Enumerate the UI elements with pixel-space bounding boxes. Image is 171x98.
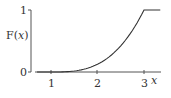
y-tick-label-1: 1: [20, 4, 27, 17]
cdf-curve: [37, 10, 160, 72]
y-axis-label: F(x): [6, 29, 28, 42]
y-tick-label-0: 0: [20, 66, 27, 79]
cdf-chart: 1 0 F(x) 1 2 3 x: [0, 0, 171, 98]
x-tick-label-3: 3: [141, 77, 148, 90]
x-tick-label-2: 2: [94, 77, 101, 90]
x-axis-label: x: [151, 74, 158, 87]
x-tick-label-1: 1: [48, 77, 55, 90]
